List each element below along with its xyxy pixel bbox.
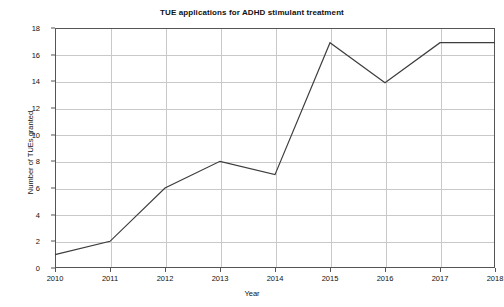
y-tick-mark (51, 161, 55, 162)
y-tick-mark (51, 214, 55, 215)
gridline-vertical (386, 29, 387, 267)
y-tick-mark (51, 28, 55, 29)
gridline-vertical (276, 29, 277, 267)
x-tick-label: 2017 (432, 274, 449, 283)
x-tick-mark (110, 268, 111, 272)
x-tick-label: 2014 (267, 274, 284, 283)
chart-container: TUE applications for ADHD stimulant trea… (0, 0, 504, 307)
x-tick-mark (385, 268, 386, 272)
y-tick-mark (51, 241, 55, 242)
chart-title: TUE applications for ADHD stimulant trea… (0, 8, 504, 17)
y-tick-label: 18 (0, 24, 40, 33)
gridline-vertical (441, 29, 442, 267)
x-tick-label: 2012 (157, 274, 174, 283)
x-tick-mark (330, 268, 331, 272)
plot-area (55, 28, 495, 268)
x-tick-mark (275, 268, 276, 272)
x-tick-label: 2010 (47, 274, 64, 283)
gridline-vertical (221, 29, 222, 267)
y-tick-mark (51, 134, 55, 135)
x-tick-label: 2015 (322, 274, 339, 283)
gridline-vertical (331, 29, 332, 267)
x-tick-mark (220, 268, 221, 272)
x-tick-mark (440, 268, 441, 272)
y-tick-mark (51, 54, 55, 55)
x-tick-label: 2011 (102, 274, 118, 283)
x-tick-label: 2018 (487, 274, 504, 283)
y-tick-mark (51, 81, 55, 82)
gridline-vertical (111, 29, 112, 267)
x-tick-mark (55, 268, 56, 272)
x-tick-label: 2016 (377, 274, 394, 283)
x-axis-label: Year (0, 289, 504, 298)
y-axis-label: Number of TUEs granted (26, 53, 35, 253)
x-tick-mark (165, 268, 166, 272)
x-tick-mark (495, 268, 496, 272)
y-tick-mark (51, 188, 55, 189)
gridline-vertical (166, 29, 167, 267)
x-tick-label: 2013 (212, 274, 229, 283)
y-tick-label: 0 (0, 264, 40, 273)
y-tick-mark (51, 108, 55, 109)
